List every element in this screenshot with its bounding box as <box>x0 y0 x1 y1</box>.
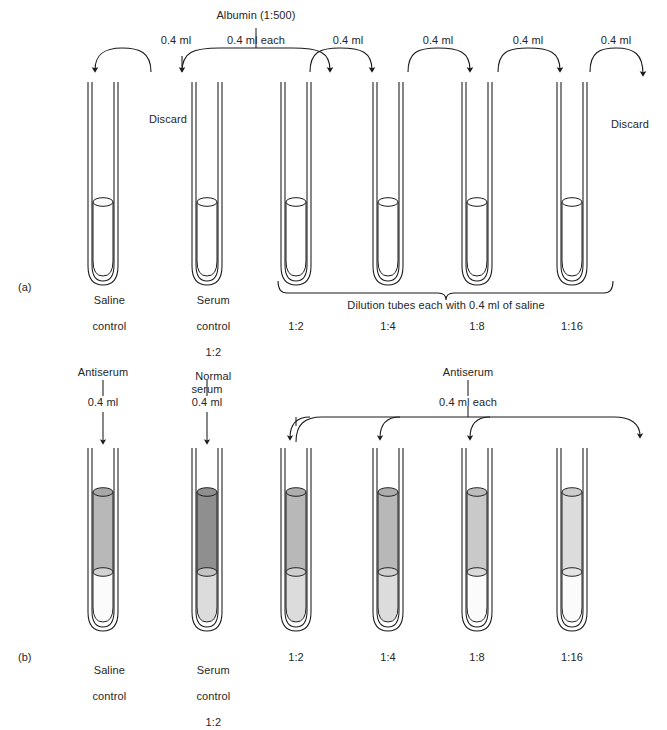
transfer-label-5: 0.4 ml <box>513 34 544 47</box>
source-label-albumin: Albumin (1:500) <box>216 9 295 22</box>
tube-b-3-label: 1:2 <box>288 651 304 664</box>
tube-b-1-line-2: control <box>92 690 126 702</box>
addition-volume-each: 0.4 ml each <box>439 396 497 409</box>
panel-a-tag: (a) <box>18 281 31 293</box>
liquid-b-1 <box>93 488 113 622</box>
transfer-label-6: 0.4 ml <box>601 34 632 47</box>
discard-label-left: Discard <box>149 113 187 126</box>
addition-label-antiserum-2: Antiserum <box>443 366 493 379</box>
transfer-label-2: 0.4 ml each <box>227 34 285 47</box>
tube-b-2-line-1: Serum <box>197 664 230 676</box>
tube-b-2-line-3: 1:2 <box>206 716 222 728</box>
tube-a-3-label: 1:2 <box>288 320 304 333</box>
tube-b-5-label: 1:8 <box>469 651 485 664</box>
tube-a-4-label: 1:4 <box>380 320 396 333</box>
tube-b-1-label: Saline control <box>80 651 126 716</box>
liquid-b-6 <box>562 488 582 622</box>
dilution-tubes-brace <box>278 281 613 300</box>
tube-a-6-label: 1:16 <box>561 320 583 333</box>
transfer-label-1: 0.4 ml <box>161 34 192 47</box>
tube-b-2-label: Serum control 1:2 <box>184 651 230 730</box>
discard-label-right: Discard <box>611 118 649 131</box>
liquid-b-3 <box>286 488 306 622</box>
tube-b-4-label: 1:4 <box>380 651 396 664</box>
tube-a-5-label: 1:8 <box>469 320 485 333</box>
addition-volume-2: 0.4 ml <box>192 396 223 409</box>
tube-a-1-line-2: control <box>92 320 126 332</box>
panel-b-liquid-columns <box>93 488 582 622</box>
liquid-b-4 <box>378 488 398 622</box>
tube-a-1-label: Saline control <box>80 281 126 346</box>
tube-b-2-line-2: control <box>196 690 230 702</box>
panel-b-tag: (b) <box>18 651 31 663</box>
tube-a-1-line-1: Saline <box>94 294 125 306</box>
addition-label-antiserum-1: Antiserum <box>78 366 128 379</box>
dilution-brace-label: Dilution tubes each with 0.4 ml of salin… <box>347 299 544 312</box>
transfer-label-4: 0.4 ml <box>423 34 454 47</box>
panel-a-liquid-columns <box>93 198 582 276</box>
tube-a-2-line-1: Serum <box>197 294 230 306</box>
tube-b-6-label: 1:16 <box>561 651 583 664</box>
panel-b-antiserum-manifold <box>290 380 640 442</box>
tube-a-2-line-2: control <box>196 320 230 332</box>
panel-b-tubes <box>88 448 587 631</box>
addition-volume-1: 0.4 ml <box>88 396 119 409</box>
liquid-b-5 <box>467 488 487 622</box>
transfer-label-3: 0.4 ml <box>333 34 364 47</box>
tube-b-1-line-1: Saline <box>94 664 125 676</box>
liquid-b-2 <box>197 488 217 622</box>
normal-serum-line-1: Normal serum <box>191 370 231 395</box>
